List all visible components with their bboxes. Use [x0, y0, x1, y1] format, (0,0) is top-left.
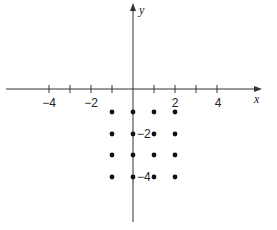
data-point: [131, 153, 136, 158]
data-point: [152, 132, 157, 137]
data-point: [152, 175, 157, 180]
data-point: [110, 153, 115, 158]
data-point: [110, 132, 115, 137]
coordinate-plane: −4 −2 2 4 x y −2 −4: [0, 0, 277, 230]
data-point: [173, 153, 178, 158]
y-tick-label: −2: [137, 127, 151, 141]
data-points: [110, 110, 178, 180]
data-point: [110, 175, 115, 180]
data-point: [131, 175, 136, 180]
x-axis-label: x: [253, 92, 260, 106]
x-tick-label: −4: [42, 96, 56, 110]
data-point: [131, 110, 136, 115]
y-axis-arrow-icon: [130, 3, 136, 11]
data-point: [152, 153, 157, 158]
y-tick-label: −4: [137, 170, 151, 184]
data-point: [110, 110, 115, 115]
data-point: [173, 132, 178, 137]
data-point: [173, 175, 178, 180]
y-axis-label: y: [138, 3, 145, 17]
data-point: [131, 132, 136, 137]
x-tick-label: −2: [84, 96, 98, 110]
data-point: [173, 110, 178, 115]
data-point: [152, 110, 157, 115]
x-tick-label: 2: [172, 96, 179, 110]
x-tick-label: 4: [215, 96, 222, 110]
